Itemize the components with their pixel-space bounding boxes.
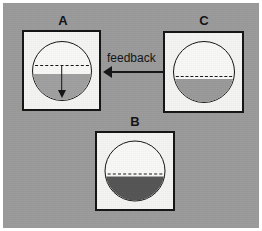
panel-a (22, 30, 101, 111)
setpoint-line-b (105, 174, 166, 175)
panel-c (163, 31, 244, 113)
panel-label-c: C (184, 14, 224, 27)
panel-label-a: A (43, 14, 83, 27)
figure-background: A feedback C B (3, 3, 259, 228)
vessel-b (105, 141, 166, 202)
panel-b (95, 131, 175, 211)
setpoint-line-c (173, 76, 235, 77)
panel-label-b: B (115, 115, 155, 128)
vessel-a (32, 41, 92, 101)
liquid-fill-b (105, 177, 166, 202)
feedback-label: feedback (107, 52, 156, 64)
liquid-fill-c (173, 79, 235, 103)
feedback-arrow-icon (103, 66, 168, 78)
figure-canvas: A feedback C B (0, 0, 262, 231)
vessel-c (173, 41, 235, 103)
